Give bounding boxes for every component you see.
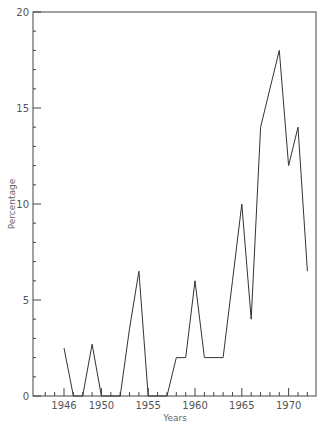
y-tick-label: 5 <box>23 295 29 306</box>
y-axis-title: Percentage <box>7 178 17 229</box>
x-axis: 194619501955196019651970 <box>45 388 307 411</box>
y-tick-label: 10 <box>16 199 29 210</box>
data-line <box>64 50 307 396</box>
x-tick-label: 1970 <box>276 400 301 411</box>
x-tick-label: 1965 <box>229 400 254 411</box>
x-tick-label: 1960 <box>182 400 207 411</box>
line-chart: 05101520 194619501955196019651970 Percen… <box>0 0 323 425</box>
x-tick-label: 1946 <box>51 400 76 411</box>
y-tick-label: 0 <box>23 391 29 402</box>
y-axis: 05101520 <box>16 7 41 402</box>
x-tick-label: 1950 <box>89 400 114 411</box>
y-tick-label: 15 <box>16 103 29 114</box>
plot-frame <box>33 12 316 396</box>
x-tick-label: 1955 <box>136 400 161 411</box>
y-tick-label: 20 <box>16 7 29 18</box>
x-axis-title: Years <box>162 413 187 423</box>
